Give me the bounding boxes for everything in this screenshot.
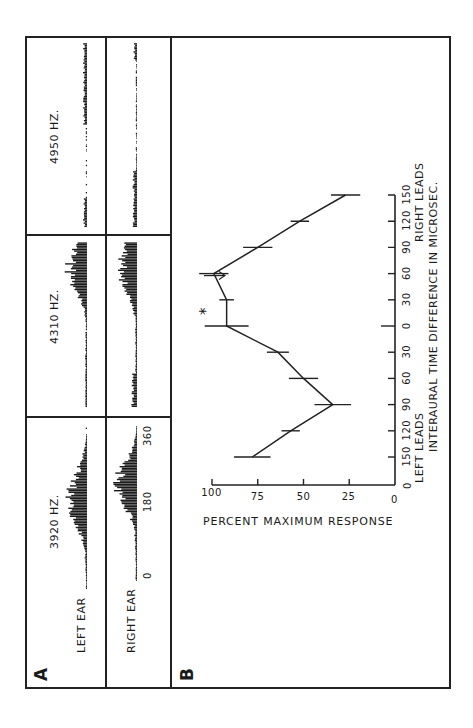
x-tick-label: 150 bbox=[401, 184, 412, 205]
x-axis-title: INTERAURAL TIME DIFFERENCE IN MICROSEC. bbox=[427, 181, 440, 452]
x-tick-label: 0 bbox=[401, 322, 412, 329]
x-tick-label: 30 bbox=[401, 345, 412, 359]
x-tick-label: 120 bbox=[401, 420, 412, 441]
x-tick-label: 90 bbox=[401, 240, 412, 254]
y-tick-label: 50 bbox=[296, 491, 310, 502]
x-tick-label: 90 bbox=[401, 397, 412, 411]
y-tick-label: 100 bbox=[201, 487, 222, 498]
annotation-asterisk: * bbox=[197, 307, 215, 315]
x-label-left-leads: LEFT LEADS bbox=[413, 413, 426, 483]
figure: A B LEFT EAR RIGHT EAR 3920 HZ. 4310 HZ.… bbox=[25, 36, 451, 689]
x-tick-label: 150 bbox=[401, 446, 412, 467]
x-tick-label: 120 bbox=[401, 210, 412, 231]
x-label-right-leads: RIGHT LEADS bbox=[413, 163, 426, 242]
x-tick-label: 30 bbox=[401, 292, 412, 306]
y-axis-title: PERCENT MAXIMUM RESPONSE bbox=[203, 515, 393, 528]
y-tick-label: 75 bbox=[250, 491, 264, 502]
y-tick-label: 25 bbox=[342, 491, 356, 502]
x-tick-label: 60 bbox=[401, 266, 412, 280]
x-tick-origin: 0 bbox=[402, 482, 413, 489]
x-tick-label: 60 bbox=[401, 371, 412, 385]
y-tick-label: 0 bbox=[391, 494, 398, 505]
line-chart bbox=[25, 36, 451, 689]
